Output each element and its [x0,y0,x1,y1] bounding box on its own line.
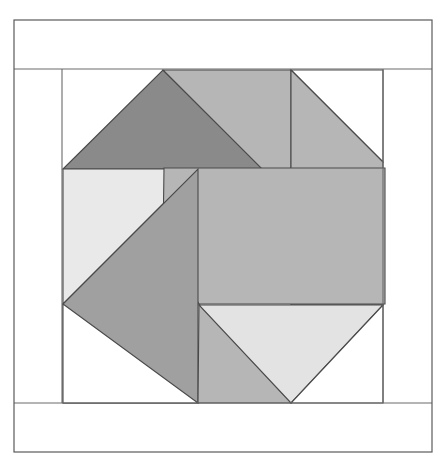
quilt-diagram-canvas [0,0,445,466]
quilt-block-svg [0,0,445,466]
